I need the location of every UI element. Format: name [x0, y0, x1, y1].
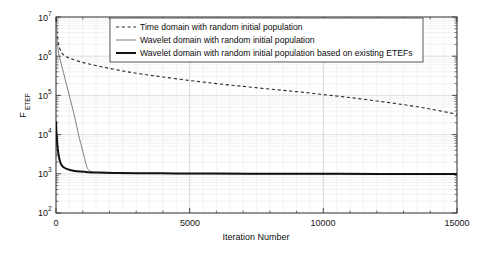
y-tick-exponent: 4	[48, 127, 52, 134]
legend-label-2: Wavelet domain with random initial popul…	[140, 48, 412, 58]
chart-svg: 10 7 10 6 10 5 10 4 10 3 10 2 0 5000 100…	[0, 0, 486, 257]
y-tick-label: 10	[38, 208, 48, 218]
x-tick-label: 0	[53, 218, 58, 228]
y-axis-label: F ETEF	[18, 93, 31, 117]
y-tick-exponent: 6	[48, 49, 52, 56]
x-tick-labels: 0 5000 10000 15000	[53, 218, 469, 228]
x-axis-label: Iteration Number	[222, 232, 289, 242]
y-axis-label-subscript: ETEF	[24, 93, 31, 110]
x-tick-label: 10000	[310, 218, 335, 228]
y-tick-labels: 10 7 10 6 10 5 10 4 10 3 10 2	[38, 10, 52, 218]
y-axis-label-base: F	[18, 112, 28, 118]
x-tick-label: 15000	[444, 218, 469, 228]
y-tick-label: 10	[38, 169, 48, 179]
figure-container: 10 7 10 6 10 5 10 4 10 3 10 2 0 5000 100…	[0, 0, 486, 257]
x-tick-label: 5000	[180, 218, 200, 228]
y-tick-exponent: 5	[48, 88, 52, 95]
y-tick-exponent: 7	[48, 10, 52, 17]
legend: Time domain with random initial populati…	[110, 18, 423, 62]
y-tick-label: 10	[38, 91, 48, 101]
y-tick-label: 10	[38, 13, 48, 23]
y-tick-label: 10	[38, 130, 48, 140]
y-tick-exponent: 2	[48, 205, 52, 212]
y-tick-label: 10	[38, 52, 48, 62]
y-tick-exponent: 3	[48, 166, 52, 173]
legend-label-1: Wavelet domain with random initial popul…	[140, 35, 315, 45]
legend-label-0: Time domain with random initial populati…	[140, 22, 303, 32]
